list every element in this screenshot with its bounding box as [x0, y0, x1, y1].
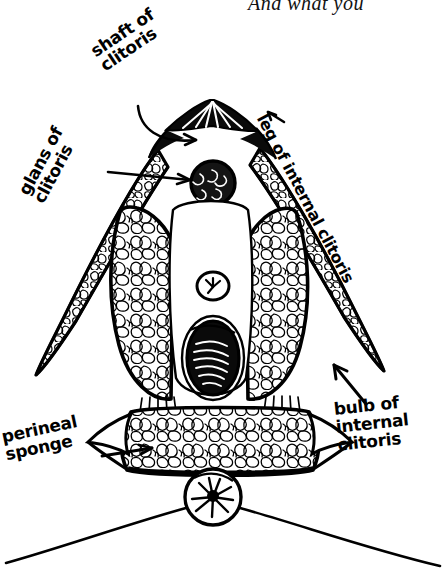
structure-shaft	[148, 100, 276, 159]
label-bulb-of-internal-clitoris: bulb of internal clitoris	[333, 392, 411, 453]
illustration-ink	[6, 100, 440, 566]
anatomy-illustration	[0, 0, 446, 578]
structure-bulb-right	[246, 208, 308, 399]
caption-text: And what you	[248, 0, 364, 15]
structure-vaginal-opening	[182, 316, 244, 400]
structure-perineal-sponge	[88, 396, 352, 475]
page-caption: And what you	[0, 0, 446, 15]
structure-anus	[185, 469, 241, 525]
structure-urethral-opening	[197, 272, 229, 300]
structure-bulb-left	[111, 207, 173, 399]
